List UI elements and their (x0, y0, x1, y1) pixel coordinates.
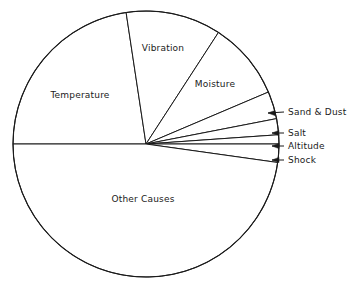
pie-slice[interactable] (13, 13, 146, 145)
pie-chart-figure: TemperatureVibrationMoistureSand & DustS… (0, 0, 351, 282)
slice-label-salt: Salt (288, 129, 306, 138)
slice-label-altitude: Altitude (288, 142, 325, 151)
slice-label-other-causes: Other Causes (111, 195, 174, 204)
slice-label-temperature: Temperature (50, 91, 109, 100)
slice-label-sand-dust: Sand & Dust (288, 108, 346, 117)
pie-slice[interactable] (13, 144, 278, 277)
slice-label-moisture: Moisture (195, 80, 235, 89)
slice-label-vibration: Vibration (142, 44, 184, 53)
slice-label-shock: Shock (288, 156, 316, 165)
